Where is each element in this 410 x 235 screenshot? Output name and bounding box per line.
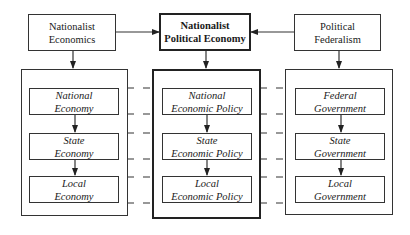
box-label: Economy (54, 147, 93, 160)
box-label: Economic Policy (171, 102, 242, 115)
dashed-links-right (260, 88, 285, 203)
box-label: Economics (49, 33, 96, 46)
box-label: Local (54, 177, 93, 190)
state-economy-box: StateEconomy (29, 133, 119, 160)
box-label: Nationalist (49, 20, 96, 33)
box-label: Economy (54, 190, 93, 203)
box-label: National (171, 89, 242, 102)
box-label: Political (314, 20, 361, 33)
box-label: National (54, 89, 93, 102)
box-label: State (314, 134, 366, 147)
local-economic-policy-box: LocalEconomic Policy (162, 176, 252, 203)
national-economic-policy-box: NationalEconomic Policy (162, 88, 252, 115)
state-government-box: StateGovernment (295, 133, 385, 160)
box-label: Government (314, 190, 366, 203)
box-label: Government (314, 102, 366, 115)
box-label: Economy (54, 102, 93, 115)
local-economy-box: LocalEconomy (29, 176, 119, 203)
box-label: Nationalist (164, 19, 245, 32)
national-economy-box: NationalEconomy (29, 88, 119, 115)
dashed-links-left (127, 88, 152, 203)
box-label: Economic Policy (171, 147, 242, 160)
nationalist-economics-box: Nationalist Economics (28, 14, 116, 51)
state-economic-policy-box: StateEconomic Policy (162, 133, 252, 160)
federal-government-box: FederalGovernment (295, 88, 385, 115)
box-label: Government (314, 147, 366, 160)
box-label: State (54, 134, 93, 147)
local-government-box: LocalGovernment (295, 176, 385, 203)
box-label: Federal (314, 89, 366, 102)
box-label: Economic Policy (171, 190, 242, 203)
political-federalism-box: Political Federalism (294, 14, 381, 51)
box-label: Local (171, 177, 242, 190)
box-label: State (171, 134, 242, 147)
box-label: Political Economy (164, 32, 245, 45)
box-label: Federalism (314, 33, 361, 46)
box-label: Local (314, 177, 366, 190)
nationalist-political-economy-box: Nationalist Political Economy (159, 13, 251, 51)
